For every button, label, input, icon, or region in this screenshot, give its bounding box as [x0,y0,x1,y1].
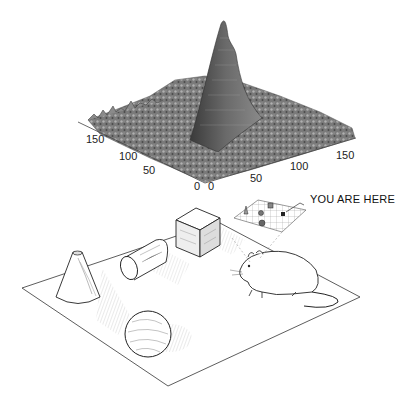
figure-canvas: 150 100 50 0 0 50 100 150 [0,0,412,402]
left-tick-150: 150 [86,133,104,145]
right-tick-0: 0 [208,180,214,192]
arena: YOU ARE HERE [22,193,395,386]
left-tick-50: 50 [143,164,155,176]
right-tick-50: 50 [250,172,262,184]
you-are-here-label: YOU ARE HERE [310,193,395,205]
left-tick-0: 0 [194,180,200,192]
right-tick-100: 100 [290,160,308,172]
left-tick-100: 100 [119,150,137,162]
right-tick-150: 150 [336,149,354,161]
surface-plot: 150 100 50 0 0 50 100 150 [78,21,356,192]
